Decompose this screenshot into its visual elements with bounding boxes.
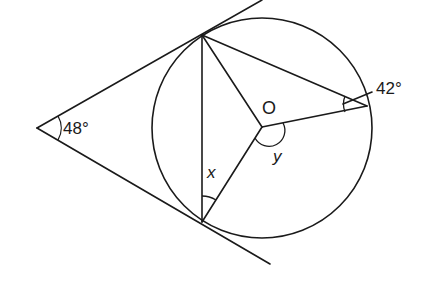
label-centre-o: O xyxy=(262,99,276,117)
angle-arc-y xyxy=(255,123,285,146)
label-angle-x: x xyxy=(207,164,216,181)
tangent-line-top xyxy=(37,0,262,128)
radius-o-to-c xyxy=(262,106,367,127)
line-a-to-o xyxy=(202,35,262,127)
label-angle-y: y xyxy=(273,148,282,165)
label-48-degrees: 48° xyxy=(63,120,89,137)
chord-ac xyxy=(202,35,367,106)
geometry-diagram xyxy=(0,0,433,284)
angle-arc-48 xyxy=(58,116,61,140)
label-42-degrees: 42° xyxy=(376,80,402,97)
angle-arc-x xyxy=(202,196,216,200)
